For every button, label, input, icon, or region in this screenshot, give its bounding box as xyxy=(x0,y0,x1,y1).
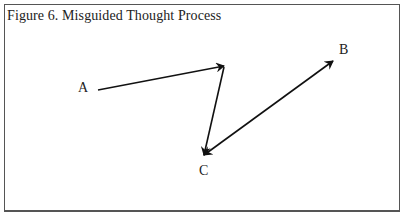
node-label-a: A xyxy=(78,80,88,96)
arrow-c-b-bidirectional xyxy=(204,61,333,155)
node-label-c: C xyxy=(199,163,208,179)
diagram-arrows xyxy=(0,0,405,218)
arrow-a-to-turn xyxy=(98,66,224,90)
node-label-b: B xyxy=(339,42,348,58)
